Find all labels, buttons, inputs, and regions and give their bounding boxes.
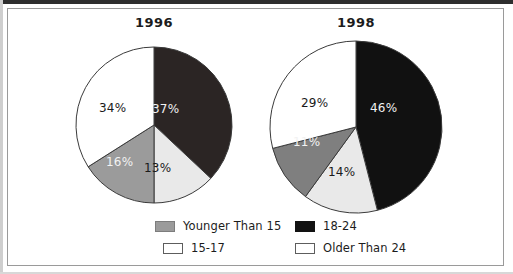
legend-label-18-24: 18-24 [323,219,357,233]
legend-item-15-17[interactable]: 15-17 [155,241,295,255]
legend-item-18-24[interactable]: 18-24 [295,219,425,233]
pie-1998-slice-label-younger-than-15: 11% [293,135,320,149]
pie-1996-svg [74,45,234,205]
pie-1998-slice-label-older-than-24: 29% [301,96,328,110]
legend-row: 15-17 Older Than 24 [155,237,425,259]
pie-1998-slice-label-15-17: 14% [328,165,355,179]
legend-label-younger-than-15: Younger Than 15 [183,219,281,233]
pie-chart-1996: 37% 13% 16% 34% [74,45,234,205]
legend-swatch-gray-icon [155,221,175,232]
legend-swatch-black-icon [295,221,315,232]
legend-label-15-17: 15-17 [191,241,225,255]
legend-item-older-than-24[interactable]: Older Than 24 [295,241,425,255]
pie-title-1998: 1998 [316,15,396,30]
page-top-edge [0,0,513,4]
pie-1998-slice-label-18-24: 46% [370,101,397,115]
pie-1998-svg [268,39,444,215]
legend-row: Younger Than 15 18-24 [155,215,425,237]
legend-swatch-white-icon [163,243,183,254]
legend-item-younger-than-15[interactable]: Younger Than 15 [155,219,295,233]
legend-swatch-white-icon [295,243,315,254]
pie-1996-slice-label-younger-than-15: 16% [106,155,133,169]
legend-label-older-than-24: Older Than 24 [323,241,406,255]
pie-1996-slice-label-15-17: 13% [144,161,171,175]
pie-chart-1998: 46% 14% 11% 29% [268,39,444,215]
pie-title-1996: 1996 [114,15,194,30]
pie-1996-slice-label-older-than-24: 34% [99,101,126,115]
pie-1996-slice-label-18-24: 37% [152,102,179,116]
chart-page: 1996 37% 13% 16% 34% 1998 46% 14% 11% 29… [0,0,513,274]
page-left-edge [0,0,3,274]
chart-legend: Younger Than 15 18-24 15-17 Older Than 2… [155,215,425,259]
